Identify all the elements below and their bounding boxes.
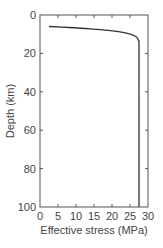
- y-tick-label: 40: [24, 86, 36, 98]
- y-axis-title: Depth (km): [4, 84, 16, 138]
- x-tick-label: 20: [106, 210, 118, 222]
- x-axis-title: Effective stress (MPa): [40, 224, 147, 236]
- x-tick-label: 25: [124, 210, 136, 222]
- x-tick-label: 5: [55, 210, 61, 222]
- y-tick-label: 80: [24, 163, 36, 175]
- x-tick-label: 0: [37, 210, 43, 222]
- y-tick-label: 60: [24, 124, 36, 136]
- y-tick-label: 0: [30, 9, 36, 21]
- y-tick-label: 20: [24, 47, 36, 59]
- x-tick-label: 15: [88, 210, 100, 222]
- y-tick-label: 100: [18, 201, 36, 213]
- x-tick-label: 30: [142, 210, 154, 222]
- effective-stress-depth-chart: 051015202530020406080100 Effective stres…: [0, 0, 163, 248]
- x-tick-label: 10: [70, 210, 82, 222]
